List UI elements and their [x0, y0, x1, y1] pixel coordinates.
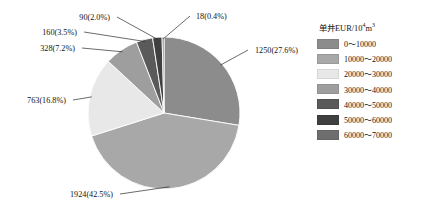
leader-line: [84, 32, 145, 42]
pie-data-label: 160(3.5%): [42, 28, 77, 37]
legend-swatch: [317, 99, 339, 109]
legend-swatch: [317, 39, 339, 49]
legend-item-label: 0～10000: [344, 38, 376, 49]
leader-line: [120, 187, 169, 194]
legend-item[interactable]: 20000～30000: [317, 66, 423, 81]
pie-data-label: 1250(27.6%): [255, 46, 298, 55]
legend-item[interactable]: 30000～40000: [317, 82, 423, 97]
legend-item[interactable]: 60000～70000: [317, 127, 423, 142]
legend-item-label: 30000～40000: [344, 84, 392, 95]
pie-slice[interactable]: [164, 37, 240, 125]
leader-line: [163, 16, 190, 39]
legend-item[interactable]: 0～10000: [317, 36, 423, 51]
legend-item-label: 50000～60000: [344, 114, 392, 125]
legend: 单井EUR/104m3 0～1000010000～2000020000～3000…: [317, 21, 423, 142]
legend-swatch: [317, 115, 339, 125]
legend-items: 0～1000010000～2000020000～3000030000～40000…: [317, 36, 423, 142]
pie-data-label: 90(2.0%): [79, 13, 110, 22]
legend-item-label: 60000～70000: [344, 129, 392, 140]
legend-swatch: [317, 130, 339, 140]
legend-swatch: [317, 54, 339, 64]
pie-data-label: 763(16.8%): [27, 96, 66, 105]
legend-item[interactable]: 10000～20000: [317, 51, 423, 66]
legend-item[interactable]: 50000～60000: [317, 112, 423, 127]
pie-slice-group: [88, 37, 240, 189]
leader-line: [220, 50, 248, 65]
pie-chart-figure: 1250(27.6%)1924(42.5%)763(16.8%)328(7.2%…: [0, 0, 425, 208]
legend-item[interactable]: 40000～50000: [317, 97, 423, 112]
legend-item-label: 10000～20000: [344, 53, 392, 64]
legend-title: 单井EUR/104m3: [319, 21, 423, 33]
legend-swatch: [317, 69, 339, 79]
leader-line: [117, 17, 158, 39]
legend-item-label: 40000～50000: [344, 99, 392, 110]
pie-data-label: 1924(42.5%): [70, 190, 113, 199]
pie-data-label: 328(7.2%): [40, 44, 75, 53]
leader-line: [82, 48, 122, 52]
pie-data-label: 18(0.4%): [196, 12, 227, 21]
legend-swatch: [317, 84, 339, 94]
legend-item-label: 20000～30000: [344, 68, 392, 79]
